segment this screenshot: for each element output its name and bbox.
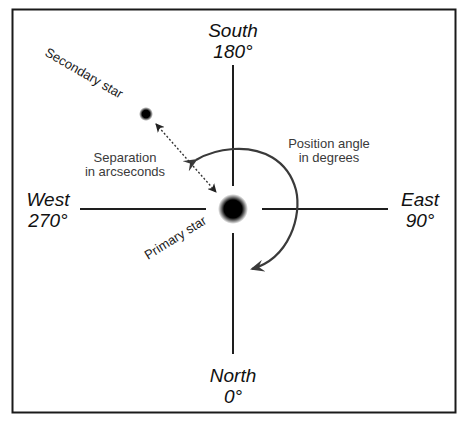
svg-text:Position angle: Position angle xyxy=(288,136,370,151)
secondary-star-icon xyxy=(139,107,153,121)
separation-note: Separation in arcseconds xyxy=(85,150,166,179)
svg-text:180°: 180° xyxy=(213,41,253,62)
svg-text:90°: 90° xyxy=(406,210,435,231)
double-star-diagram: South 180° North 0° West 270° East 90° S… xyxy=(0,0,465,422)
svg-text:North: North xyxy=(210,365,256,386)
svg-text:in degrees: in degrees xyxy=(299,150,360,165)
svg-text:0°: 0° xyxy=(224,386,243,407)
label-west: West 270° xyxy=(27,189,71,231)
svg-text:270°: 270° xyxy=(27,210,68,231)
secondary-star-label: Secondary star xyxy=(43,45,127,102)
position-angle-note: Position angle in degrees xyxy=(288,136,370,165)
svg-text:East: East xyxy=(401,189,440,210)
svg-text:South: South xyxy=(208,20,258,41)
separation-line xyxy=(156,124,216,192)
primary-star-icon xyxy=(218,194,248,224)
label-east: East 90° xyxy=(401,189,440,231)
primary-star-label: Primary star xyxy=(142,212,210,262)
svg-text:in arcseconds: in arcseconds xyxy=(85,164,166,179)
label-north: North 0° xyxy=(210,365,256,407)
svg-text:West: West xyxy=(27,189,71,210)
svg-text:Separation: Separation xyxy=(94,150,157,165)
label-south: South 180° xyxy=(208,20,258,62)
